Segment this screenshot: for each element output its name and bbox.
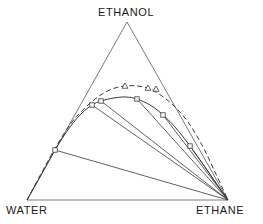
marker-square <box>53 148 57 152</box>
curve-binodal-dashed-upper <box>27 86 228 200</box>
marker-triangle <box>153 86 159 91</box>
marker-square <box>90 103 94 107</box>
triangle-frame <box>27 22 228 200</box>
marker-square <box>161 113 165 117</box>
tie-line <box>163 115 228 200</box>
tie-line <box>92 105 228 200</box>
vertex-label-ethanol: ETHANOL <box>98 6 154 18</box>
marker-triangle <box>122 83 128 88</box>
ternary-phase-diagram: ETHANOL WATER ETHANE <box>0 0 263 224</box>
tie-line <box>55 150 228 200</box>
marker-square <box>99 99 103 103</box>
triangle-outline <box>27 22 228 200</box>
marker-square <box>188 144 192 148</box>
vertex-label-water: WATER <box>6 204 48 216</box>
vertex-label-ethane: ETHANE <box>196 204 244 216</box>
tie-line <box>137 99 228 200</box>
ternary-plot-canvas <box>0 0 263 224</box>
marker-square <box>135 97 139 101</box>
binodal-curves-group <box>27 86 228 200</box>
